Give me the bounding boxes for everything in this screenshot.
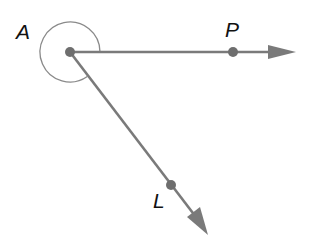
point-a <box>65 47 75 57</box>
geometry-diagram: A P L <box>0 0 316 250</box>
label-p: P <box>225 18 239 41</box>
angle-figure: A P L <box>0 0 316 250</box>
ray-ap-arrowhead <box>268 45 296 59</box>
ray-al <box>70 52 199 221</box>
point-p <box>228 47 238 57</box>
label-a: A <box>14 20 30 43</box>
point-l <box>166 180 176 190</box>
label-l: L <box>153 189 165 212</box>
